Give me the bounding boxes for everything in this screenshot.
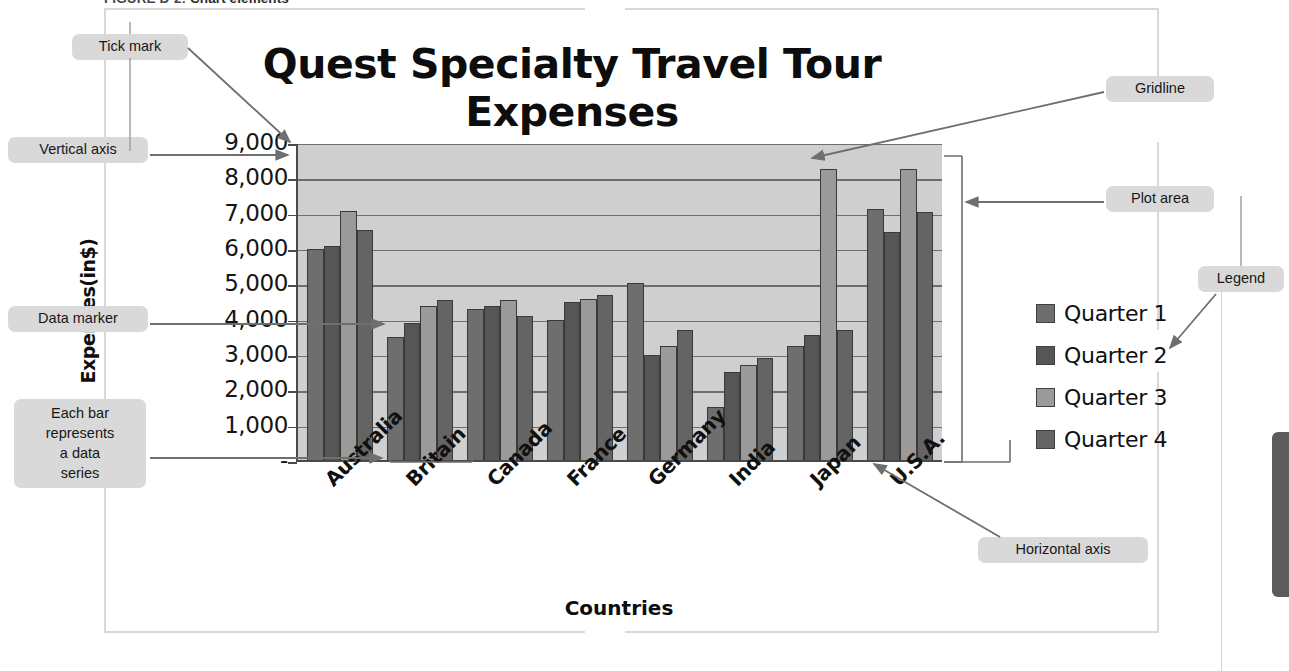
y-tick-mark: [288, 285, 297, 287]
data-marker-bar[interactable]: [820, 169, 837, 460]
bar-group: [460, 144, 540, 460]
bar-group: [300, 144, 380, 460]
data-marker-bar[interactable]: [307, 249, 324, 460]
chart-title: Quest Specialty Travel Tour Expenses: [252, 40, 892, 136]
data-marker-bar[interactable]: [644, 355, 661, 460]
legend-item[interactable]: Quarter 4: [1036, 418, 1216, 460]
y-tick-label: 5,000: [224, 270, 288, 296]
sheet-edge-bottom: [104, 631, 1159, 633]
callout-gridline: Gridline: [1106, 76, 1214, 102]
legend-item[interactable]: Quarter 2: [1036, 334, 1216, 376]
horizontal-axis-title: Countries: [296, 596, 942, 620]
y-tick-label: 7,000: [224, 200, 288, 226]
y-tick-mark: [288, 462, 297, 464]
y-tick-mark: [288, 427, 297, 429]
callout-tick-mark: Tick mark: [72, 34, 188, 60]
y-tick-label: 1,000: [224, 412, 288, 438]
bar-group: [540, 144, 620, 460]
data-marker-bar[interactable]: [804, 335, 821, 460]
data-marker-bar[interactable]: [900, 169, 917, 460]
data-marker-bar[interactable]: [580, 299, 597, 461]
bar-group: [780, 144, 860, 460]
legend-swatch-icon: [1036, 388, 1055, 407]
figure-caption-text: Chart elements: [190, 0, 289, 6]
legend-label: Quarter 4: [1064, 427, 1167, 452]
data-marker-bar[interactable]: [324, 246, 341, 460]
sheet-notch-top: [585, 2, 625, 12]
chart-legend: Quarter 1Quarter 2Quarter 3Quarter 4: [1036, 292, 1216, 460]
data-marker-bar[interactable]: [484, 306, 501, 460]
sheet-notch-bottom: [585, 628, 625, 638]
data-marker-bar[interactable]: [867, 209, 884, 460]
sheet-notch-right-upper: [1150, 100, 1162, 142]
legend-label: Quarter 3: [1064, 385, 1167, 410]
data-marker-bar[interactable]: [564, 302, 581, 460]
data-marker-bar[interactable]: [340, 211, 357, 460]
legend-item[interactable]: Quarter 3: [1036, 376, 1216, 418]
callout-each-bar-series: Each bar represents a data series: [14, 399, 146, 488]
y-tick-mark: [288, 391, 297, 393]
legend-label: Quarter 2: [1064, 343, 1167, 368]
vertical-axis-labels: 9,0008,0007,0006,0005,0004,0003,0002,000…: [196, 128, 288, 470]
y-tick-label: 4,000: [224, 306, 288, 332]
data-marker-bar[interactable]: [500, 300, 517, 460]
data-marker-bar[interactable]: [420, 306, 437, 460]
data-marker-bar[interactable]: [884, 232, 901, 460]
y-tick-mark: [288, 321, 297, 323]
y-tick-label: 2,000: [224, 376, 288, 402]
data-marker-bar[interactable]: [387, 337, 404, 460]
figure-caption: FIGURE D-2: Chart elements: [104, 0, 289, 6]
page-edge-line: [1221, 285, 1222, 671]
y-tick-mark: [288, 144, 297, 146]
y-tick-label: 6,000: [224, 235, 288, 261]
callout-vertical-axis: Vertical axis: [8, 137, 148, 163]
legend-label: Quarter 1: [1064, 301, 1167, 326]
legend-swatch-icon: [1036, 304, 1055, 323]
figure-number: FIGURE D-2:: [104, 0, 186, 6]
callout-legend: Legend: [1198, 266, 1284, 292]
y-tick-label: 9,000: [224, 129, 288, 155]
page-thumb-tab: [1272, 432, 1289, 597]
y-tick-mark: [288, 356, 297, 358]
y-tick-label: -: [280, 447, 288, 473]
horizontal-axis-labels: AustraliaBritainCanadaFranceGermanyIndia…: [296, 466, 942, 558]
sheet-edge-top: [104, 8, 1159, 10]
data-marker-bar[interactable]: [404, 323, 421, 460]
callout-horizontal-axis: Horizontal axis: [978, 537, 1148, 563]
legend-swatch-icon: [1036, 346, 1055, 365]
callout-data-marker: Data marker: [8, 306, 148, 332]
bar-group: [620, 144, 700, 460]
y-tick-label: 8,000: [224, 164, 288, 190]
y-tick-mark: [288, 250, 297, 252]
bar-group: [860, 144, 940, 460]
data-marker-bar[interactable]: [627, 283, 644, 460]
y-tick-label: 3,000: [224, 341, 288, 367]
figure-page: FIGURE D-2: Chart elements Quest Special…: [0, 0, 1289, 671]
legend-item[interactable]: Quarter 1: [1036, 292, 1216, 334]
legend-swatch-icon: [1036, 430, 1055, 449]
y-tick-mark: [288, 215, 297, 217]
y-tick-mark: [288, 179, 297, 181]
data-marker-bar[interactable]: [787, 346, 804, 460]
callout-plot-area: Plot area: [1106, 186, 1214, 212]
data-marker-bar[interactable]: [917, 212, 934, 460]
